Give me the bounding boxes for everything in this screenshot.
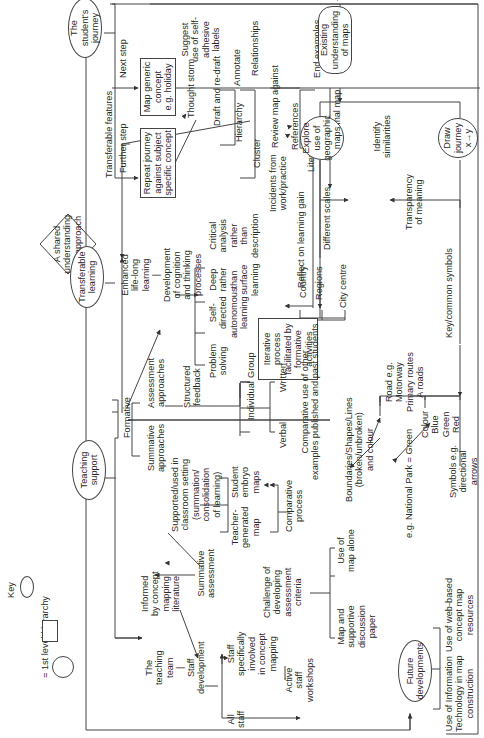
group-label: Group bbox=[246, 352, 256, 378]
road-label: Road e.g.MotorwayPrimary routesA roads bbox=[384, 352, 426, 412]
web-based-label: Use of web-basedconcept mapresources bbox=[444, 578, 475, 652]
all-staff-label: Allstaff bbox=[226, 711, 247, 728]
different-scales-label: Different scales bbox=[322, 187, 332, 250]
challenge-criteria-label: Challenge ofdevelopingassessmentcriteria bbox=[262, 566, 304, 618]
transparency-label: Transparencyof meaning bbox=[404, 174, 425, 230]
draw-journey-node: Drawjourneyx→y bbox=[438, 118, 478, 158]
teaching-support-node: Teachingsupport bbox=[72, 440, 106, 500]
regions-label: Regions bbox=[314, 266, 324, 300]
key-circle-icon bbox=[52, 656, 74, 678]
draft-label: Draft and re-draft bbox=[212, 56, 222, 126]
transferable-learning-node: Transferablelearning bbox=[70, 246, 104, 308]
city-centre-label: City centre bbox=[338, 264, 348, 308]
summative-approaches-label: Summativeapproaches bbox=[146, 424, 167, 472]
teacher-generated-label: Teacher-generatedmap bbox=[230, 507, 261, 548]
student-embryo-label: Studentembryomaps bbox=[230, 466, 261, 498]
relationships-label: Relationships bbox=[250, 21, 260, 76]
deep-learning-label: Deepratherthansurfacelearning bbox=[208, 263, 260, 296]
comparative-use-label: Comparative use of otherexamples publish… bbox=[300, 324, 321, 480]
review-map-label: Review map against bbox=[270, 65, 280, 148]
national-park-label: e.g. National Park = Green bbox=[404, 429, 414, 538]
informed-literature-label: Informedby conceptmappingliterature bbox=[140, 572, 182, 616]
concept-map-diagram: Key = 1st level hierarchy A shared under… bbox=[0, 0, 484, 738]
individual-label: Individual bbox=[246, 381, 256, 420]
verbal-label: Verbal bbox=[278, 422, 288, 448]
colour-label: ColourBlueGreenRed bbox=[420, 411, 462, 438]
information-technology-label: Use of InformationTechnology in mapconst… bbox=[444, 655, 475, 732]
map-generic-concept-box: Map genericconcepte.g. holiday bbox=[140, 58, 176, 116]
staff-specifically-label: Staffspecificallyinvolvedin conceptmappi… bbox=[226, 632, 278, 676]
teaching-team-label: Theteachingteam|Staffdevelopment bbox=[144, 641, 206, 694]
problem-solving-label: Problemsolving bbox=[208, 344, 229, 378]
thought-storm-label: Thought storm bbox=[186, 59, 196, 118]
future-developments-node: Futuredevelopments bbox=[398, 640, 432, 702]
references-label: References bbox=[290, 103, 300, 150]
formative-label: Formative bbox=[122, 397, 132, 438]
summative-assessment-label: Summativeassessment bbox=[196, 549, 217, 598]
transferable-features-label: Transferable features bbox=[104, 91, 114, 178]
next-step-label: Next step bbox=[118, 39, 128, 78]
supported-used-label: Supported/used inclassroom setting(summa… bbox=[170, 457, 222, 532]
map-supportive-label: Map andsupportivediscussionpaper bbox=[336, 605, 378, 648]
hierarchy-label: Hierarchy bbox=[234, 103, 244, 142]
incidents-label: Incidents fromwork/practice bbox=[268, 154, 289, 212]
assessment-approaches-label: Assessmentapproaches bbox=[146, 358, 167, 408]
structured-feedback-label: Structuredfeedback bbox=[182, 366, 203, 408]
written-label: Written bbox=[278, 363, 288, 392]
students-journey-node: Thestudent'sjourney bbox=[68, 0, 102, 58]
key-ellipse-icon bbox=[20, 576, 34, 598]
comparative-process-label: Comparativeprocess bbox=[284, 480, 305, 532]
explore-geographic-node: Exploreuse ofgeographicmaps bbox=[300, 116, 344, 160]
symbols-label: Symbols e.g.directionalarrows bbox=[448, 445, 479, 498]
active-workshops-label: Activestaffworkshops bbox=[284, 658, 315, 702]
key-common-symbols-label: Key/common symbols bbox=[444, 248, 454, 338]
key-rectangle-icon bbox=[42, 620, 58, 642]
identify-similarities-label: Identifysimilarities bbox=[372, 115, 393, 158]
repeat-journey-box: Repeat journeyagainst subjectspecific co… bbox=[140, 128, 176, 198]
cluster-label: Cluster bbox=[252, 139, 262, 168]
critical-analysis-label: Criticalanalysisratherthandescription bbox=[208, 214, 260, 258]
enhanced-learning-label: Enhancedlife-longlearning|Developmentof … bbox=[120, 248, 203, 302]
boundaries-label: Boundaries/Shapes/Lines(broken/unbroken)… bbox=[344, 397, 375, 502]
key-title: Key bbox=[6, 582, 16, 598]
further-step-label: Further step bbox=[118, 123, 128, 173]
annotate-label: Annotate bbox=[232, 49, 242, 86]
existing-understanding-node: Existingunderstandingof maps bbox=[318, 6, 352, 74]
reflect-label: Reflect on learning gain bbox=[296, 191, 306, 288]
use-map-alone-label: Use ofmap alone bbox=[336, 529, 357, 572]
